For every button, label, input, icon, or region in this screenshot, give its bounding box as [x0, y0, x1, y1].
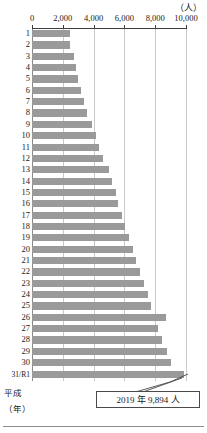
bar — [32, 348, 167, 355]
x-tick-label: 8,000 — [146, 13, 165, 23]
x-tick-label: 10,000 — [174, 13, 197, 23]
x-tickmark — [186, 25, 187, 29]
y-tick-label: 15 — [22, 187, 31, 198]
bar-row — [32, 210, 186, 221]
bar-row — [32, 198, 186, 209]
y-tick-label: 26 — [22, 312, 31, 323]
bar — [32, 371, 184, 378]
bar-row — [32, 85, 186, 96]
bar-row — [32, 278, 186, 289]
y-tick-label: 23 — [22, 278, 31, 289]
y-tick-label: 8 — [26, 107, 30, 118]
bar-row — [32, 369, 186, 380]
bar — [32, 178, 112, 185]
x-tick-label: 6,000 — [115, 13, 134, 23]
bar — [32, 212, 122, 219]
bar — [32, 336, 162, 343]
bar-row — [32, 187, 186, 198]
y-axis-tick-labels: 1234567891011121314151617181920212223242… — [0, 28, 30, 381]
era-caption: 平成 — [4, 386, 22, 398]
bar — [32, 75, 78, 82]
bar — [32, 132, 96, 139]
x-tick-label: 4,000 — [84, 13, 103, 23]
y-tick-label: 7 — [26, 96, 30, 107]
bar — [32, 144, 99, 151]
bar — [32, 268, 140, 275]
y-tick-label: 6 — [26, 85, 30, 96]
bar — [32, 41, 70, 48]
bar-row — [32, 346, 186, 357]
y-tick-label: 1 — [26, 28, 30, 39]
bar-row — [32, 221, 186, 232]
bar-row — [32, 39, 186, 50]
bar-series — [32, 28, 186, 381]
y-tick-label: 9 — [26, 119, 30, 130]
bar-row — [32, 28, 186, 39]
gridline — [186, 28, 187, 381]
bar — [32, 166, 109, 173]
y-tick-label: 2 — [26, 39, 30, 50]
bottom-divider — [3, 426, 204, 427]
y-tick-label: 21 — [22, 255, 31, 266]
y-tick-label: 20 — [22, 244, 31, 255]
bar-row — [32, 153, 186, 164]
y-tick-label: 10 — [22, 130, 31, 141]
bar — [32, 155, 103, 162]
callout-text: 2019 年 9,894 人 — [117, 393, 180, 406]
bar — [32, 359, 171, 366]
bar-row — [32, 244, 186, 255]
x-tick-label: 0 — [30, 13, 34, 23]
y-tick-label: 11 — [22, 142, 30, 153]
y-tick-label: 30 — [22, 357, 31, 368]
y-tick-label: 27 — [22, 323, 31, 334]
plot-area — [32, 28, 186, 381]
bar — [32, 109, 87, 116]
bar-row — [32, 323, 186, 334]
y-tick-label: 17 — [22, 210, 31, 221]
y-tick-label: 13 — [22, 164, 31, 175]
bar-row — [32, 334, 186, 345]
bar-chart: （人） 02,0004,0006,0008,00010,000 12345678… — [0, 0, 207, 433]
y-tick-label: 19 — [22, 232, 31, 243]
final-year-callout: 2019 年 9,894 人 — [96, 391, 200, 408]
bar-row — [32, 142, 186, 153]
year-axis-caption: （年） — [4, 402, 31, 414]
y-tick-label: 28 — [22, 334, 31, 345]
y-tick-label: 5 — [26, 73, 30, 84]
bar — [32, 325, 158, 332]
bar-row — [32, 232, 186, 243]
bar-row — [32, 300, 186, 311]
bar — [32, 200, 118, 207]
bar — [32, 223, 125, 230]
y-tick-label: 3 — [26, 51, 30, 62]
bar-row — [32, 289, 186, 300]
bar — [32, 87, 81, 94]
bar-row — [32, 62, 186, 73]
bar-row — [32, 266, 186, 277]
bar — [32, 53, 74, 60]
bar-row — [32, 119, 186, 130]
bar — [32, 280, 144, 287]
bar — [32, 291, 148, 298]
y-tick-label: 25 — [22, 300, 31, 311]
bar — [32, 64, 76, 71]
bar-row — [32, 73, 186, 84]
y-tick-label: 24 — [22, 289, 31, 300]
bar-row — [32, 312, 186, 323]
y-tick-label: 16 — [22, 198, 31, 209]
bar — [32, 30, 70, 37]
bar — [32, 257, 136, 264]
bar-row — [32, 357, 186, 368]
bar — [32, 314, 166, 321]
bar — [32, 234, 129, 241]
x-axis-tick-labels: 02,0004,0006,0008,00010,000 — [0, 13, 207, 24]
bar-row — [32, 51, 186, 62]
bar-row — [32, 255, 186, 266]
y-tick-label: 31/R1 — [11, 369, 30, 380]
bar — [32, 121, 92, 128]
bar-row — [32, 107, 186, 118]
bar-row — [32, 96, 186, 107]
y-tick-label: 4 — [26, 62, 30, 73]
y-tick-label: 22 — [22, 266, 31, 277]
bar — [32, 302, 151, 309]
